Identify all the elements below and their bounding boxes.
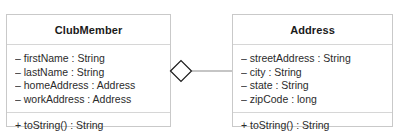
attribute-compartment-clubmember: – firstName : String – lastName : String…: [7, 45, 170, 113]
attribute-row: – workAddress : Address: [15, 93, 170, 107]
attribute-row: – lastName : String: [15, 66, 170, 80]
class-name-address: Address: [233, 15, 392, 45]
method-row: + toString() : String: [15, 119, 170, 133]
attribute-row: – streetAddress : String: [241, 52, 392, 66]
attribute-row: – firstName : String: [15, 52, 170, 66]
method-compartment-clubmember: + toString() : String: [7, 113, 170, 135]
method-row: + toString() : String: [241, 119, 392, 133]
class-box-address[interactable]: Address – streetAddress : String – city …: [232, 14, 393, 127]
class-box-clubmember[interactable]: ClubMember – firstName : String – lastNa…: [6, 14, 171, 127]
uml-class-diagram-canvas: ClubMember – firstName : String – lastNa…: [0, 0, 401, 135]
attribute-row: – zipCode : long: [241, 93, 392, 107]
attribute-row: – state : String: [241, 79, 392, 93]
class-name-clubmember: ClubMember: [7, 15, 170, 45]
hollow-diamond-icon: [171, 61, 192, 82]
attribute-row: – homeAddress : Address: [15, 79, 170, 93]
method-compartment-address: + toString() : String: [233, 113, 392, 135]
attribute-row: – city : String: [241, 66, 392, 80]
attribute-compartment-address: – streetAddress : String – city : String…: [233, 45, 392, 113]
